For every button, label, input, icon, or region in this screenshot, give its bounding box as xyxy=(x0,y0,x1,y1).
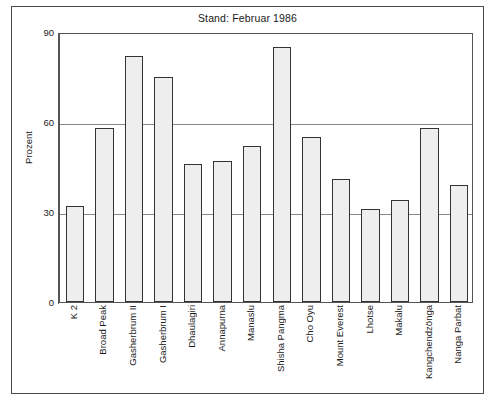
x-axis-tick-labels: K 2Broad PeakGasherbrum IIGasherbrum IDh… xyxy=(59,305,473,397)
x-tick-label: Dhaulagiri xyxy=(187,305,197,348)
x-tick-label: Annapurna xyxy=(217,305,227,351)
y-tick-label-0: 0 xyxy=(20,298,54,308)
bar xyxy=(213,161,231,302)
chart-title: Stand: Februar 1986 xyxy=(12,12,483,24)
x-tick-label: Mount Everest xyxy=(335,305,345,366)
y-axis-title: Prozent xyxy=(23,108,34,188)
x-tick-label: Broad Peak xyxy=(98,305,108,355)
x-tick-label: Makalu xyxy=(394,305,404,336)
x-tick-label: Cho Oyu xyxy=(305,305,315,343)
bar xyxy=(95,128,113,302)
bar xyxy=(420,128,438,302)
bar xyxy=(450,185,468,302)
bar xyxy=(154,77,172,302)
x-tick-label: Lhotse xyxy=(365,305,375,334)
y-tick-label-90: 90 xyxy=(20,28,54,38)
bar xyxy=(302,137,320,302)
bar xyxy=(361,209,379,302)
x-tick-label: Gasherbrum I xyxy=(158,305,168,363)
y-tick-label-30: 30 xyxy=(20,208,54,218)
bar xyxy=(273,47,291,302)
bar xyxy=(243,146,261,302)
x-tick-label: Kangchendzönga xyxy=(424,305,434,379)
x-tick-label: Nanga Parbat xyxy=(453,305,463,364)
bars-layer xyxy=(60,34,472,302)
x-tick-label: Shisha Pangma xyxy=(276,305,286,372)
x-tick-label: Gasherbrum II xyxy=(128,305,138,366)
x-tick-label: Manaslu xyxy=(246,305,256,341)
plot-area xyxy=(59,33,473,303)
bar xyxy=(332,179,350,302)
bar xyxy=(391,200,409,302)
bar xyxy=(125,56,143,302)
bar xyxy=(66,206,84,302)
bar xyxy=(184,164,202,302)
x-tick-label: K 2 xyxy=(69,305,79,319)
figure-frame: Stand: Februar 1986 0306090 Prozent K 2B… xyxy=(11,6,484,394)
